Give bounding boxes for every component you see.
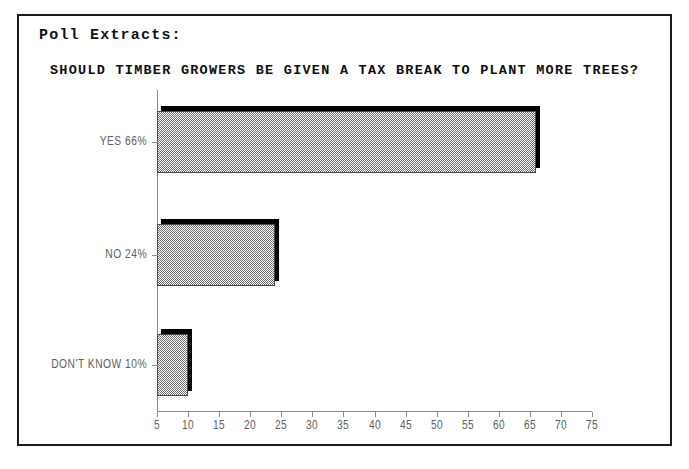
plot-area: YES 66%NO 24%DON'T KNOW 10% 510152025303… (19, 16, 674, 448)
x-tick-label: 10 (176, 417, 199, 432)
bar-face (157, 334, 188, 396)
x-tick-label: 35 (332, 417, 355, 432)
x-tick-label: 55 (456, 417, 479, 432)
x-tick-label: 40 (363, 417, 386, 432)
bar[interactable] (157, 334, 194, 402)
bar[interactable] (157, 111, 542, 179)
x-tick-label: 20 (239, 417, 262, 432)
x-tick-label: 70 (549, 417, 572, 432)
category-tick (152, 142, 158, 143)
x-tick-label: 60 (487, 417, 510, 432)
x-tick-label: 45 (394, 417, 417, 432)
x-tick-label: 15 (207, 417, 230, 432)
category-tick (152, 365, 158, 366)
chart-frame: Poll Extracts: SHOULD TIMBER GROWERS BE … (17, 14, 672, 446)
x-tick-label: 5 (145, 417, 168, 432)
category-tick (152, 255, 158, 256)
category-label: NO 24% (42, 247, 147, 261)
x-tick-label: 30 (301, 417, 324, 432)
category-label: YES 66% (42, 134, 147, 148)
x-tick-label: 75 (580, 417, 603, 432)
x-tick-label: 50 (425, 417, 448, 432)
bar-face (157, 224, 275, 286)
x-tick-label: 25 (270, 417, 293, 432)
bar-face (157, 111, 536, 173)
x-tick-label: 65 (518, 417, 541, 432)
category-label: DON'T KNOW 10% (42, 357, 147, 371)
bar[interactable] (157, 224, 281, 292)
